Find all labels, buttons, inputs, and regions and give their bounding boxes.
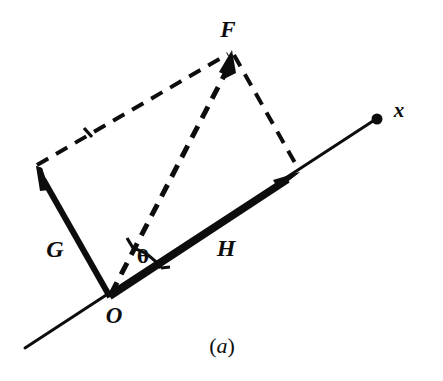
figure-caption: (a) xyxy=(209,335,235,357)
label-vector-h: H xyxy=(217,236,236,260)
angle-arc-tick-left xyxy=(127,238,133,248)
caption-paren-close: ) xyxy=(228,333,235,358)
label-axis-x: x xyxy=(394,100,405,121)
x-axis-endpoint-dot xyxy=(372,114,383,125)
vector-parallelogram-figure: F O G H x θ (a) xyxy=(0,0,443,381)
diagram-canvas xyxy=(0,0,443,381)
label-point-f: F xyxy=(220,18,235,41)
caption-letter: a xyxy=(217,333,228,358)
label-angle-theta: θ xyxy=(137,248,149,266)
dashed-side-g-to-f xyxy=(37,54,228,165)
vector-g-arrowhead-barb xyxy=(36,166,49,191)
vector-h-shaft xyxy=(110,180,288,297)
dashed-side-f-to-h xyxy=(234,55,299,170)
label-vector-g: G xyxy=(46,237,63,261)
label-point-o: O xyxy=(106,304,123,327)
angle-arc-tick-right xyxy=(161,267,170,268)
